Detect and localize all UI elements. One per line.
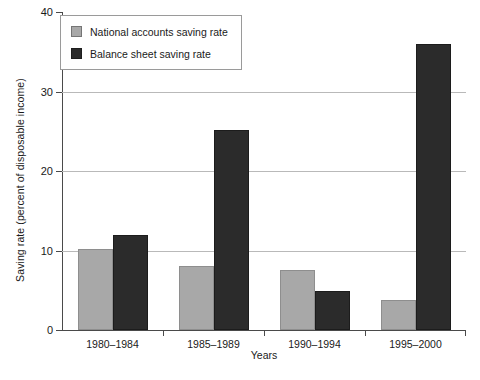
y-axis-title: Saving rate (percent of disposable incom… — [14, 10, 28, 350]
bar — [179, 266, 214, 330]
y-axis-tick-label: 40 — [41, 6, 53, 18]
bar — [315, 291, 350, 330]
bar — [416, 44, 451, 330]
chart-legend: National accounts saving rateBalance she… — [60, 15, 242, 70]
y-axis-tick-label: 10 — [41, 245, 53, 257]
y-axis-tick-label: 20 — [41, 165, 53, 177]
x-axis-title: Years — [62, 349, 466, 361]
legend-item: National accounts saving rate — [71, 23, 228, 40]
legend-swatch-icon — [71, 26, 82, 37]
legend-label: Balance sheet saving rate — [90, 48, 211, 60]
x-axis-tick — [365, 330, 366, 336]
y-axis-tick — [56, 251, 62, 252]
bar — [280, 270, 315, 330]
y-axis-tick — [56, 330, 62, 331]
bar — [78, 249, 113, 330]
x-axis-tick — [163, 330, 164, 336]
legend-item: Balance sheet saving rate — [71, 45, 228, 62]
y-axis-tick-label: 30 — [41, 86, 53, 98]
y-axis-tick — [56, 92, 62, 93]
bar — [113, 235, 148, 330]
y-axis-tick-label: 0 — [47, 324, 53, 336]
y-axis-tick — [56, 171, 62, 172]
y-axis-tick — [56, 12, 62, 13]
bar — [214, 130, 249, 330]
x-axis-tick — [264, 330, 265, 336]
legend-swatch-icon — [71, 48, 82, 59]
legend-label: National accounts saving rate — [90, 26, 228, 38]
bar — [381, 300, 416, 330]
bar-chart: Saving rate (percent of disposable incom… — [0, 0, 480, 380]
x-axis-tick — [465, 330, 466, 336]
gridline — [62, 171, 466, 172]
gridline — [62, 92, 466, 93]
